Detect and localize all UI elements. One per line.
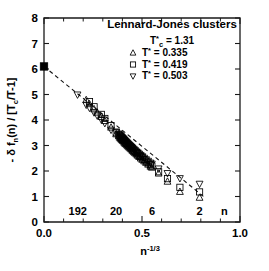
svg-text:8: 8: [32, 12, 39, 24]
svg-text:1.0: 1.0: [232, 227, 248, 239]
svg-text:0.0: 0.0: [36, 227, 52, 239]
legend-entry-0: T* = 0.335: [130, 46, 188, 58]
svg-text:0.5: 0.5: [134, 227, 151, 239]
svg-text:T* = 0.419: T* = 0.419: [142, 58, 188, 70]
x-axis-tick-labels: 0.00.51.0: [36, 227, 248, 239]
svg-text:3: 3: [32, 140, 38, 152]
svg-text:5: 5: [32, 89, 39, 101]
svg-text:6: 6: [32, 63, 38, 75]
svg-text:4: 4: [32, 114, 39, 126]
series-filled-square: [40, 63, 47, 70]
chart-title: Lennard-Jones clustersT*c = 1.31: [107, 18, 237, 49]
svg-text:2: 2: [197, 205, 203, 217]
series-triangle-up: [83, 96, 203, 200]
y-axis-tick-labels: 012345678: [32, 12, 39, 228]
chart-canvas: 0.00.51.0 012345678 1922062n Lennard-Jon…: [0, 0, 269, 271]
data-point-markers: [40, 63, 203, 201]
figure-container: 0.00.51.0 012345678 1922062n Lennard-Jon…: [0, 0, 269, 271]
svg-text:0: 0: [32, 216, 38, 228]
y-axis-title: - δ fn(n) / [Tc/T-1]: [5, 77, 20, 162]
svg-text:6: 6: [149, 205, 155, 217]
legend: T* = 0.335T* = 0.419T* = 0.503: [130, 46, 188, 81]
svg-text:1: 1: [32, 191, 39, 203]
svg-text:192: 192: [69, 205, 87, 217]
svg-text:T* = 0.503: T* = 0.503: [142, 69, 188, 81]
svg-text:7: 7: [32, 38, 38, 50]
svg-text:2: 2: [32, 165, 38, 177]
x-axis-title: n-1/3: [140, 244, 160, 257]
svg-text:Lennard-Jones clusters: Lennard-Jones clusters: [107, 18, 237, 30]
svg-text:T* = 0.335: T* = 0.335: [142, 46, 188, 58]
series-square: [86, 99, 202, 195]
legend-entry-2: T* = 0.503: [130, 69, 188, 81]
legend-entry-1: T* = 0.419: [130, 58, 187, 70]
svg-text:20: 20: [110, 205, 122, 217]
inner-cluster-size-labels: 1922062n: [69, 205, 228, 217]
svg-text:n: n: [221, 205, 228, 217]
